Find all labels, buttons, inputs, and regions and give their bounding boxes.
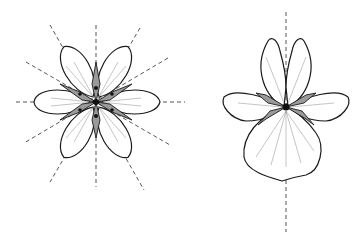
bilateral-petals	[223, 39, 349, 181]
bilateral-flower	[0, 0, 360, 245]
symmetry-figure	[0, 0, 360, 245]
bilateral-center	[283, 104, 290, 111]
